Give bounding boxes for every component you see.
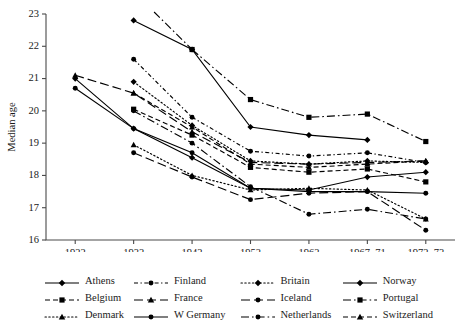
legend-label: Portugal [383,292,419,303]
data-point [189,47,194,52]
series-line-lead-in [154,12,192,50]
y-tick-label: 23 [29,8,40,19]
data-point [248,184,253,189]
series-switzerland [131,90,429,170]
data-point [190,115,195,120]
line-chart-svg: 1617181920212223Median age19221932194219… [0,0,462,252]
legend-sample-diamond-icon [44,275,80,287]
data-point [423,139,428,144]
legend-sample-circle-icon [133,309,169,321]
data-point [190,150,195,155]
data-point [190,141,195,146]
legend-marker [255,314,260,319]
data-point [131,79,137,85]
y-axis-title: Median age [6,102,17,152]
series-line [75,79,426,190]
x-tick-label: 1967–71 [349,247,386,252]
series-w-germany [73,86,429,196]
legend-row: DenmarkW GermanyNetherlandsSwitzerland [18,306,444,323]
series-netherlands [131,108,428,221]
legend-marker [357,279,363,285]
legend-label: Finland [174,275,206,286]
legend-marker [59,297,64,302]
legend-sample-square-icon [342,292,378,304]
legend-label: Netherlands [281,309,332,320]
legend-item-britain: Britain [240,275,342,287]
y-tick-label: 17 [29,202,40,213]
chart-figure: 1617181920212223Median age19221932194219… [0,0,462,324]
legend-row: AthensFinlandBritainNorway [18,272,444,289]
series-finland [131,57,428,165]
legend-label: W Germany [174,309,225,320]
data-point [248,149,253,154]
data-point [364,174,370,180]
data-point [365,166,370,171]
data-point [306,189,311,194]
data-point [423,191,428,196]
series-line [134,82,426,164]
y-tick-label: 19 [29,137,40,148]
legend-sample-diamond-icon [342,275,378,287]
legend-marker [254,279,260,285]
series-norway [72,75,429,193]
data-point [189,129,195,134]
x-tick-label: 1952 [240,247,261,252]
legend-item-france: France [133,292,240,304]
data-point [365,207,370,212]
legend-row: BelgiumFranceIcelandPortugal [18,289,444,306]
data-point [72,72,78,77]
legend-label: Norway [383,275,417,286]
legend-marker [149,280,154,285]
legend-sample-triangle-icon [44,309,80,321]
legend-item-netherlands: Netherlands [240,309,342,321]
y-tick-label: 21 [29,72,40,83]
legend-label: Switzerland [383,309,433,320]
legend-sample-triangle-icon [133,292,169,304]
data-point [306,115,311,120]
chart-legend: AthensFinlandBritainNorway BelgiumFrance… [0,272,462,324]
data-point [306,154,311,159]
legend-label: Britain [281,275,310,286]
y-tick-label: 20 [29,105,40,116]
legend-label: Denmark [85,309,124,320]
legend-item-iceland: Iceland [240,292,342,304]
legend-sample-triangle-icon [342,309,378,321]
data-point [306,170,311,175]
legend-sample-square-icon [44,292,80,304]
series-line [75,88,426,193]
plot-area: 1617181920212223Median age19221932194219… [0,0,462,252]
data-point [306,132,312,138]
series-group [72,12,429,233]
legend-sample-circle-icon [240,292,276,304]
y-tick-label: 18 [29,169,40,180]
series-line [134,111,426,219]
legend-item-finland: Finland [133,275,240,287]
data-point [365,189,370,194]
legend-label: France [174,292,203,303]
data-point [364,137,370,143]
legend-sample-diamond-icon [240,275,276,287]
data-point [423,228,428,233]
series-line [134,21,368,140]
data-point [248,97,253,102]
legend-item-athens: Athens [18,275,133,287]
data-point [131,142,137,147]
legend-marker [357,297,362,302]
data-point [73,86,78,91]
data-point [131,17,137,23]
data-point [248,197,253,202]
legend-item-denmark: Denmark [18,309,133,321]
legend-sample-circle-icon [133,275,169,287]
legend-label: Belgium [85,292,121,303]
legend-marker [149,314,154,319]
data-point [131,150,136,155]
legend-item-w-germany: W Germany [133,309,240,321]
series-portugal [154,12,428,144]
data-point [131,57,136,62]
legend-item-belgium: Belgium [18,292,133,304]
x-tick-label: 1962 [298,247,319,252]
series-line [134,145,426,219]
legend-sample-circle-icon [240,309,276,321]
x-tick-label: 1932 [123,247,144,252]
series-denmark [131,142,429,222]
